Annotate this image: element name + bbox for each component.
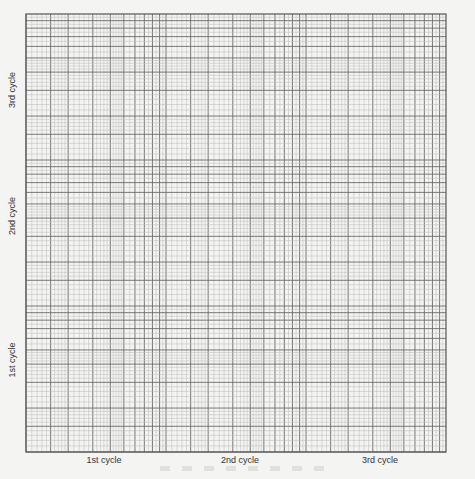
- log-log-grid: [0, 0, 475, 479]
- faint-caption-printthrough: [160, 466, 330, 471]
- y-label-cycle-1: 1st cycle: [7, 342, 17, 377]
- y-label-cycle-3: 3rd cycle: [7, 72, 17, 108]
- graph-paper-page: 1st cycle 2nd cycle 3rd cycle 3rd cycle …: [0, 0, 475, 479]
- x-label-cycle-1: 1st cycle: [86, 455, 121, 465]
- x-label-cycle-3: 3rd cycle: [362, 455, 398, 465]
- y-label-cycle-2: 2nd cycle: [7, 197, 17, 235]
- x-label-cycle-2: 2nd cycle: [221, 455, 259, 465]
